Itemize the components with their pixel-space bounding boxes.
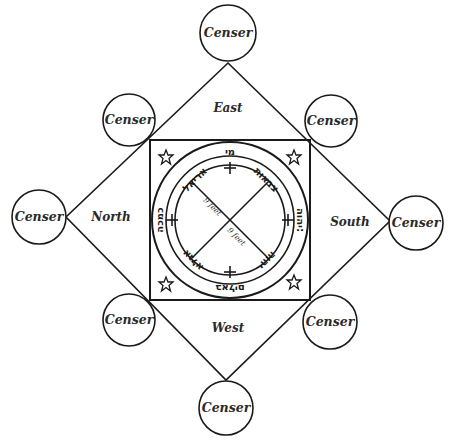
svg-text:Censer: Censer [307,113,357,128]
direction-south: South [330,215,370,229]
hebrew-inner-lower-right: יהוה [256,249,278,271]
hebrew-outer-top: מי [225,146,235,157]
cross-icon [282,214,294,226]
direction-east: East [212,101,243,115]
svg-text:Censer: Censer [392,215,442,230]
svg-text:Censer: Censer [105,312,155,327]
pentagram-icon [159,277,173,291]
cross-icon [224,162,236,174]
censer-bottom: Censer [199,381,253,435]
censer-bottom-left: Censer [103,294,155,346]
svg-text:Censer: Censer [202,400,252,415]
svg-text:Censer: Censer [306,314,356,329]
pentagram-icon [287,275,301,289]
direction-west: West [212,321,245,335]
magic-circle-diagram: 9 feet 9 feet מי באלים כמכה יהוה: אריאל … [0,0,455,445]
direction-north: North [90,210,131,224]
hebrew-inner-upper-right: צבאות [252,165,281,194]
censer-bottom-right: Censer [303,295,357,349]
svg-text:Censer: Censer [15,209,65,224]
hebrew-inner-upper-left: אריאל [180,165,209,194]
pentagram-icon [287,150,301,164]
hebrew-outer-bottom: באלים [215,283,244,294]
svg-text:Censer: Censer [204,25,254,40]
hebrew-inner-lower-left: אגלא [180,248,206,274]
measure-label-1: 9 feet [201,196,224,219]
hebrew-outer-right: יהוה: [295,208,306,232]
svg-text:Censer: Censer [105,112,155,127]
censer-left: Censer [12,190,66,244]
censer-top-left: Censer [103,94,155,146]
cross-icon [224,266,236,278]
censer-top: Censer [200,5,256,61]
censer-top-right: Censer [305,95,357,147]
hebrew-outer-left: כמכה [154,207,165,233]
measure-label-2: 9 feet [225,226,248,249]
cross-icon [166,214,178,226]
pentagram-icon [159,150,173,164]
censer-right: Censer [389,196,443,250]
